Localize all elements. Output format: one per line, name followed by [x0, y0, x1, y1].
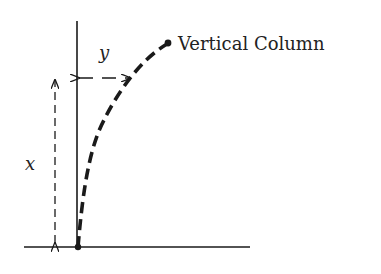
column-deflection-diagram: Vertical Column y x: [0, 0, 381, 274]
deflection-curve: [78, 44, 167, 247]
diagram-svg: Vertical Column y x: [0, 0, 381, 274]
title-label: Vertical Column: [177, 33, 325, 54]
tip-dot: [165, 40, 172, 47]
base-dot: [75, 244, 81, 250]
deflection-label: y: [98, 42, 110, 63]
height-label: x: [25, 153, 35, 174]
